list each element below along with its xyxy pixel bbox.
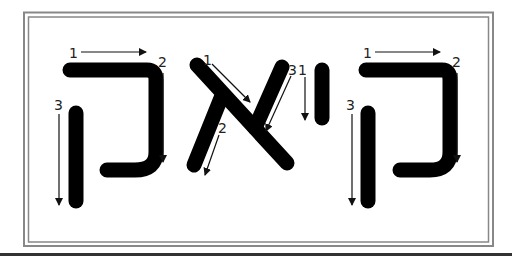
label-aleph-2: 2 [218, 120, 227, 136]
label-qof2-2: 2 [452, 54, 461, 70]
label-yod-1: 1 [298, 62, 307, 78]
stroke-order-diagram: 1 2 3 1 2 3 1 1 2 3 [0, 0, 512, 259]
label-qof1-3: 3 [54, 97, 63, 113]
label-aleph-3: 3 [288, 62, 297, 78]
label-qof1-1: 1 [69, 45, 78, 61]
letter-qof-right [366, 70, 450, 201]
label-qof2-1: 1 [363, 45, 372, 61]
label-aleph-1: 1 [203, 52, 212, 68]
bottom-bar [0, 253, 512, 256]
label-qof2-3: 3 [346, 97, 355, 113]
label-qof1-2: 2 [158, 54, 167, 70]
letter-qof-left [70, 70, 156, 201]
